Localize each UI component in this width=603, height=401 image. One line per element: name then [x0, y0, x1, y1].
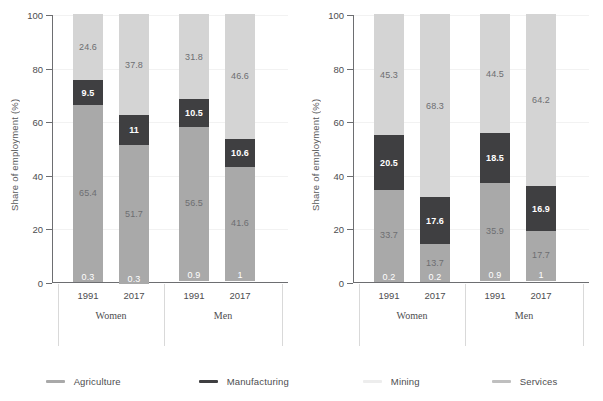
- x-axis-year-label: 1991: [77, 290, 98, 301]
- bar-segment-manufacturing[interactable]: 10.5: [179, 99, 209, 127]
- bar-segment-manufacturing[interactable]: 9.5: [73, 80, 103, 105]
- bar-segment-services[interactable]: 68.3: [420, 14, 450, 197]
- y-axis-tick-label: 80: [32, 63, 43, 74]
- bar-segment-agriculture[interactable]: 1: [526, 279, 556, 282]
- bar-segment-services[interactable]: 45.3: [374, 14, 404, 135]
- bar-segment-mining[interactable]: 56.5: [179, 127, 209, 278]
- bar-segment-services[interactable]: 44.5: [480, 14, 510, 133]
- x-axis-group-label: Women: [397, 310, 428, 321]
- x-axis-year-label: 2017: [530, 290, 551, 301]
- y-axis-label: Share of employment (%): [307, 55, 323, 255]
- bar-value-label: 1: [538, 270, 543, 280]
- stacked-bar[interactable]: 46.610.641.61: [225, 14, 255, 282]
- y-axis-tick: [46, 122, 52, 123]
- legend-swatch-icon: [363, 380, 382, 383]
- y-axis-line: [52, 15, 53, 283]
- y-axis-tick: [347, 122, 353, 123]
- bar-segment-mining[interactable]: 65.4: [73, 105, 103, 280]
- y-axis-tick-label: 100: [27, 10, 43, 21]
- legend-label: Manufacturing: [227, 376, 289, 387]
- bar-segment-agriculture[interactable]: 0.2: [420, 281, 450, 282]
- bar-segment-agriculture[interactable]: 0.9: [179, 279, 209, 281]
- bar-segment-agriculture[interactable]: 0.3: [73, 281, 103, 282]
- stacked-bar[interactable]: 64.216.917.71: [526, 14, 556, 282]
- x-axis-line: [353, 282, 589, 283]
- bar-value-label: 46.6: [231, 71, 249, 81]
- bar-value-label: 44.5: [486, 69, 504, 79]
- bar-value-label: 0.3: [82, 272, 95, 282]
- legend-label: Agriculture: [74, 376, 121, 387]
- y-axis-tick-label: 0: [38, 278, 43, 289]
- stacked-bar[interactable]: 24.69.565.40.3: [73, 14, 103, 282]
- bar-segment-mining[interactable]: 35.9: [480, 183, 510, 279]
- bar-segment-services[interactable]: 46.6: [225, 14, 255, 139]
- bar-segment-manufacturing[interactable]: 18.5: [480, 133, 510, 183]
- legend-item-agriculture[interactable]: Agriculture: [46, 376, 121, 387]
- chart-root: Share of employment (%)02040608010024.69…: [0, 0, 603, 401]
- y-axis-tick-label: 20: [333, 224, 344, 235]
- bar-segment-agriculture[interactable]: 1: [225, 279, 255, 282]
- y-axis-tick-label: 100: [328, 10, 344, 21]
- bar-segment-services[interactable]: 37.8: [119, 14, 149, 115]
- y-axis-tick: [46, 229, 52, 230]
- bar-value-label: 10.6: [231, 148, 249, 158]
- bar-segment-agriculture[interactable]: 0.9: [480, 279, 510, 281]
- category-separator: [164, 284, 165, 346]
- bar-segment-manufacturing[interactable]: 11: [119, 115, 149, 144]
- x-axis-group-label: Men: [214, 310, 232, 321]
- y-axis-tick-label: 20: [32, 224, 43, 235]
- bar-value-label: 20.5: [380, 158, 398, 168]
- bar-segment-manufacturing[interactable]: 20.5: [374, 135, 404, 190]
- bar-segment-mining[interactable]: 33.7: [374, 190, 404, 280]
- legend-label: Services: [520, 376, 558, 387]
- bar-segment-mining[interactable]: 41.6: [225, 167, 255, 278]
- legend-label: Mining: [391, 376, 420, 387]
- bar-value-label: 56.5: [185, 198, 203, 208]
- legend-item-mining[interactable]: Mining: [363, 376, 420, 387]
- bar-value-label: 31.8: [185, 52, 203, 62]
- x-axis-category-band: 1991201719912017WomenMen: [353, 284, 589, 346]
- y-axis-tick: [347, 229, 353, 230]
- x-axis-year-label: 2017: [424, 290, 445, 301]
- bar-segment-manufacturing[interactable]: 17.6: [420, 197, 450, 244]
- chart-panel-right: Share of employment (%)02040608010045.32…: [301, 0, 603, 360]
- stacked-bar[interactable]: 68.317.613.70.2: [420, 14, 450, 282]
- legend-item-manufacturing[interactable]: Manufacturing: [199, 376, 289, 387]
- bar-value-label: 41.6: [231, 218, 249, 228]
- stacked-bar[interactable]: 44.518.535.90.9: [480, 14, 510, 282]
- bar-value-label: 0.3: [128, 274, 141, 284]
- bar-segment-manufacturing[interactable]: 16.9: [526, 186, 556, 231]
- x-axis-line: [52, 282, 288, 283]
- y-axis-line: [353, 15, 354, 283]
- bar-value-label: 18.5: [486, 153, 504, 163]
- bar-segment-mining[interactable]: 51.7: [119, 145, 149, 284]
- bar-segment-services[interactable]: 24.6: [73, 14, 103, 80]
- bar-value-label: 17.7: [532, 250, 550, 260]
- bar-segment-services[interactable]: 64.2: [526, 14, 556, 186]
- chart-panel-left: Share of employment (%)02040608010024.69…: [0, 0, 301, 360]
- bar-value-label: 33.7: [380, 230, 398, 240]
- stacked-bar[interactable]: 45.320.533.70.2: [374, 14, 404, 282]
- bar-segment-manufacturing[interactable]: 10.6: [225, 139, 255, 167]
- legend-item-services[interactable]: Services: [492, 376, 558, 387]
- y-axis-tick-label: 40: [333, 170, 344, 181]
- x-axis-year-label: 2017: [123, 290, 144, 301]
- legend-swatch-icon: [492, 380, 511, 383]
- legend-swatch-icon: [46, 380, 65, 383]
- plot-area: 02040608010024.69.565.40.337.81151.70.33…: [52, 15, 284, 283]
- stacked-bar[interactable]: 37.81151.70.3: [119, 14, 149, 282]
- bar-value-label: 45.3: [380, 70, 398, 80]
- x-axis-category-band: 1991201719912017WomenMen: [52, 284, 288, 346]
- y-axis-tick: [46, 176, 52, 177]
- category-separator: [282, 284, 283, 346]
- y-axis-tick: [347, 15, 353, 16]
- y-axis-tick: [46, 69, 52, 70]
- bar-segment-services[interactable]: 31.8: [179, 14, 209, 99]
- bar-segment-agriculture[interactable]: 0.2: [374, 281, 404, 282]
- bar-value-label: 64.2: [532, 95, 550, 105]
- stacked-bar[interactable]: 31.810.556.50.9: [179, 14, 209, 282]
- bar-value-label: 1: [237, 270, 242, 280]
- bar-value-label: 11: [129, 125, 139, 135]
- bar-value-label: 37.8: [125, 60, 143, 70]
- bar-value-label: 51.7: [125, 209, 143, 219]
